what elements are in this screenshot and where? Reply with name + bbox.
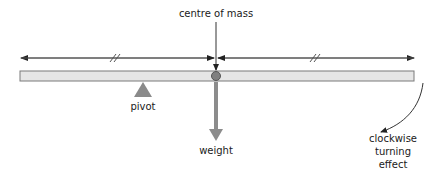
- weight-arrow-shaft: [214, 82, 218, 130]
- clockwise-turning-arrow: [381, 83, 423, 132]
- turning-effect-label-line2: turning: [375, 146, 411, 157]
- pivot-triangle: [134, 82, 152, 97]
- centre-of-mass-dot: [212, 72, 221, 81]
- weight-arrow-head: [209, 129, 223, 141]
- pivot-label: pivot: [130, 101, 155, 112]
- left-distance-arrow: [21, 54, 214, 62]
- turning-effect-label-line3: effect: [379, 159, 408, 170]
- centre-of-mass-label: centre of mass: [179, 8, 253, 19]
- lever-diagram: centre of mass pivot weight clockwise tu…: [0, 0, 439, 174]
- weight-arrow: [209, 82, 223, 141]
- weight-label: weight: [199, 145, 233, 156]
- right-distance-arrow: [218, 54, 414, 62]
- turning-effect-label-line1: clockwise: [369, 133, 417, 144]
